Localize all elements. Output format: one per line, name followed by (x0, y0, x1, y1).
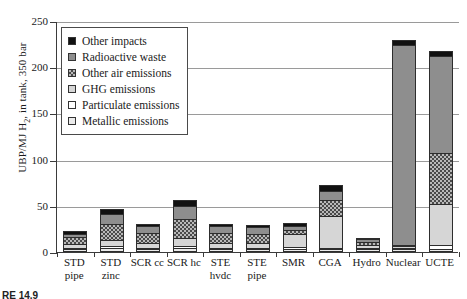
stacked-bar[interactable] (209, 224, 233, 252)
figure-caption: RE 14.9 (2, 290, 38, 299)
bar-slot (422, 21, 459, 252)
x-axis-category-ste-pipe: STEpipe (239, 256, 276, 282)
bar-segment-ghg (320, 217, 342, 248)
solid-black-swatch (68, 37, 76, 45)
category-label-line: pipe (56, 269, 93, 282)
y-axis-title-main: UBP/MJ H (16, 123, 28, 173)
bar-segment-air (210, 234, 232, 244)
stacked-bar[interactable] (100, 209, 124, 252)
crosshatch-swatch (68, 69, 76, 77)
x-axis-tick (459, 252, 460, 257)
bar-segment-metal (137, 250, 159, 251)
legend-item[interactable]: Other impacts (68, 33, 179, 49)
stacked-bar[interactable] (283, 223, 307, 252)
bar-segment-air (137, 234, 159, 244)
x-axis-category-smr: SMR (275, 256, 312, 269)
x-axis-category-ste-hvdc: STEhvdc (202, 256, 239, 282)
legend-item-label: Radioactive waste (82, 51, 166, 63)
y-axis-tick (50, 161, 57, 162)
category-label-line: Nuclear (385, 256, 422, 269)
very-light-swatch (68, 117, 76, 125)
y-axis-tick-label: 100 (15, 160, 48, 161)
gray-swatch (68, 53, 76, 61)
x-axis-category-nuclear: Nuclear (385, 256, 422, 269)
bar-slot (276, 21, 313, 252)
category-label-line: hvdc (202, 269, 239, 282)
bar-segment-metal (430, 250, 452, 251)
y-axis-tick (50, 114, 57, 115)
legend-item-label: GHG emissions (82, 83, 155, 95)
bar-segment-metal (284, 250, 306, 251)
bar-segment-metal (101, 249, 123, 251)
bar-slot (203, 21, 240, 252)
bar-segment-ghg (430, 205, 452, 247)
y-axis-tick-label: 200 (15, 67, 48, 68)
category-label-line: pipe (239, 269, 276, 282)
category-label-line: STE (202, 256, 239, 269)
bar-segment-radio (430, 57, 452, 154)
y-axis-tick (50, 68, 57, 69)
x-axis-category-cga: CGA (312, 256, 349, 269)
legend-item-label: Other air emissions (82, 67, 171, 79)
white-swatch (68, 101, 76, 109)
y-axis-title-rest: , in tank, 350 bar (16, 42, 28, 118)
stacked-bar[interactable] (392, 40, 416, 252)
y-axis-tick-label: 50 (15, 206, 48, 207)
category-label-line: CGA (312, 256, 349, 269)
bar-segment-ghg (174, 239, 196, 247)
stacked-bar[interactable] (429, 51, 453, 252)
x-axis-category-scr-cc: SCR cc (129, 256, 166, 269)
bar-segment-radio (393, 46, 415, 246)
x-axis-category-hydro: Hydro (348, 256, 385, 269)
legend-item[interactable]: Other air emissions (68, 65, 179, 81)
legend-item[interactable]: Metallic emissions (68, 113, 179, 129)
legend-item[interactable]: Radioactive waste (68, 49, 179, 65)
bar-segment-radio (320, 192, 342, 200)
category-label-line: SCR hc (166, 256, 203, 269)
stacked-bar[interactable] (173, 200, 197, 252)
stacked-bar[interactable] (136, 224, 160, 252)
legend-item[interactable]: GHG emissions (68, 81, 179, 97)
bar-segment-metal (210, 250, 232, 251)
y-axis-tick-label: 0 (15, 252, 48, 253)
y-axis-tick (50, 22, 57, 23)
stacked-bar[interactable] (319, 185, 343, 252)
legend-item-label: Metallic emissions (82, 115, 169, 127)
category-label-line: SCR cc (129, 256, 166, 269)
x-axis-category-labels: STDpipeSTDzincSCR ccSCR hcSTEhvdcSTEpipe… (56, 256, 458, 296)
chart-container: UBP/MJ H2, in tank, 350 bar 050100150200… (0, 0, 467, 299)
bar-segment-air (174, 220, 196, 239)
bar-segment-metal (247, 250, 269, 251)
bar-segment-radio (174, 207, 196, 220)
category-label-line: STD (93, 256, 130, 269)
bar-segment-metal (393, 250, 415, 251)
x-axis-category-ucte: UCTE (421, 256, 458, 269)
y-axis-tick (50, 253, 57, 254)
stacked-bar[interactable] (356, 238, 380, 252)
category-label-line: UCTE (421, 256, 458, 269)
legend-item[interactable]: Particulate emissions (68, 97, 179, 113)
bar-slot (349, 21, 386, 252)
light-gray-swatch (68, 85, 76, 93)
bar-slot (240, 21, 277, 252)
y-axis-tick-label: 250 (15, 21, 48, 22)
stacked-bar[interactable] (63, 231, 87, 252)
legend-item-label: Particulate emissions (82, 99, 179, 111)
y-axis-title-sub: 2 (23, 119, 32, 123)
bar-segment-air (320, 201, 342, 218)
bar-segment-air (101, 225, 123, 241)
stacked-bar[interactable] (246, 225, 270, 252)
x-axis-category-std-zinc: STDzinc (93, 256, 130, 282)
bar-segment-radio (101, 215, 123, 225)
y-axis-tick (50, 207, 57, 208)
bar-slot (386, 21, 423, 252)
bar-segment-metal (357, 250, 379, 251)
y-axis-tick-label: 150 (15, 113, 48, 114)
bar-segment-metal (64, 250, 86, 251)
bar-slot (313, 21, 350, 252)
category-label-line: Hydro (348, 256, 385, 269)
bar-segment-air (430, 154, 452, 205)
x-axis-category-scr-hc: SCR hc (166, 256, 203, 269)
chart-legend: Other impactsRadioactive wasteOther air … (61, 27, 188, 135)
category-label-line: zinc (93, 269, 130, 282)
